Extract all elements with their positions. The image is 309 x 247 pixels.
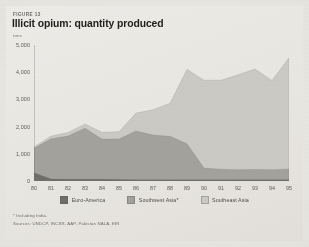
x-tick-label: 81 <box>48 185 54 191</box>
y-axis-unit-label: tons <box>13 33 22 38</box>
legend-swatch-icon <box>127 196 135 204</box>
series-layer <box>34 58 289 181</box>
y-tick-label: 4,000 <box>16 69 30 75</box>
legend-swatch-icon <box>60 196 68 204</box>
x-tick-label: 95 <box>286 185 292 191</box>
x-tick-label: 85 <box>116 185 122 191</box>
x-tick-label: 90 <box>201 185 207 191</box>
legend-item[interactable]: Southwest Asia* <box>127 196 178 204</box>
x-tick-label: 91 <box>218 185 224 191</box>
x-tick-label: 82 <box>65 185 71 191</box>
x-tick-label: 83 <box>82 185 88 191</box>
legend-label: Southeast Asia <box>212 197 249 203</box>
x-tick-label: 94 <box>269 185 275 191</box>
legend-label: Euro-America <box>72 197 106 203</box>
page-title: Illicit opium: quantity produced <box>12 18 164 29</box>
legend-swatch-icon <box>201 196 209 204</box>
x-tick-label: 92 <box>235 185 241 191</box>
legend-item[interactable]: Euro-America <box>60 196 105 204</box>
figure-number: FIGURE 13 <box>13 12 41 17</box>
y-tick-label: 2,000 <box>16 124 30 130</box>
x-tick-label: 86 <box>133 185 139 191</box>
footnote-text: * Including India. <box>13 213 47 218</box>
y-tick-label: 1,000 <box>16 151 30 157</box>
x-tick-label: 89 <box>184 185 190 191</box>
x-tick-label: 88 <box>167 185 173 191</box>
x-tick-label: 84 <box>99 185 105 191</box>
y-tick-label: 0 <box>27 178 30 184</box>
y-tick-label: 5,000 <box>16 42 30 48</box>
stacked-area-chart <box>34 45 289 181</box>
x-tick-label: 93 <box>252 185 258 191</box>
chart-legend: Euro-AmericaSouthwest Asia*Southeast Asi… <box>0 196 309 204</box>
y-tick-label: 3,000 <box>16 96 30 102</box>
plot-area: 01,0002,0003,0004,0005,000 8081828384858… <box>34 45 289 181</box>
legend-label: Southwest Asia* <box>139 197 179 203</box>
source-text: Sources: UNDCP, INCSR, AAP, Pakistan NAL… <box>13 221 120 226</box>
legend-item[interactable]: Southeast Asia <box>201 196 249 204</box>
figure-panel: FIGURE 13 Illicit opium: quantity produc… <box>0 0 309 247</box>
x-tick-label: 87 <box>150 185 156 191</box>
x-tick-label: 80 <box>31 185 37 191</box>
